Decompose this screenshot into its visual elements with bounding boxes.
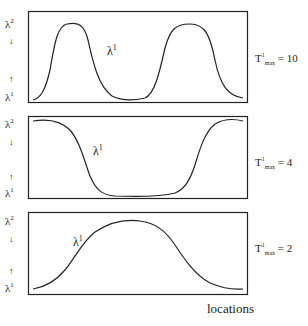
panel-2-curve-label: λ1 [93, 143, 103, 158]
panel-2-T-label: T1max = 4 [255, 156, 293, 170]
panel-2-y-top-label: λ2 [5, 117, 14, 130]
panel-1-T-label: T1max = 10 [255, 52, 298, 66]
panel-1-y-top-label: λ2 [5, 17, 14, 30]
panel-1-arrow-down-icon: ↓ [9, 36, 14, 46]
panel-2-arrow-down-icon: ↓ [9, 137, 14, 147]
panel-2-y-bottom-label: λ1 [5, 186, 14, 199]
panel-1-y-bottom-label: λ1 [5, 90, 14, 103]
panel-2-frame [29, 117, 248, 199]
panel-3-arrow-down-icon: ↓ [9, 234, 14, 244]
figure: λ1 λ2 ↓ ↑ λ1 T1max = 10 λ1 λ2 ↓ ↑ λ1 T1m… [0, 0, 308, 326]
panel-3-arrow-up-icon: ↑ [9, 266, 14, 276]
panel-1: λ1 λ2 ↓ ↑ λ1 T1max = 10 [5, 12, 298, 104]
panel-3-y-bottom-label: λ1 [5, 281, 14, 294]
panel-1-arrow-up-icon: ↑ [9, 74, 14, 84]
panel-3-y-top-label: λ2 [5, 214, 14, 227]
x-axis-label: locations [207, 301, 254, 316]
panel-3-curve [33, 220, 243, 289]
panel-2-curve [33, 119, 243, 196]
panel-3-T-label: T1max = 2 [255, 242, 292, 256]
panel-2-arrow-up-icon: ↑ [9, 172, 14, 182]
panel-1-curve [33, 23, 243, 100]
panel-3-frame [29, 213, 248, 295]
panel-3: λ1 λ2 ↓ ↑ λ1 T1max = 2 [5, 213, 292, 295]
panel-2: λ1 λ2 ↓ ↑ λ1 T1max = 4 [5, 117, 293, 200]
panel-1-curve-label: λ1 [107, 43, 117, 58]
